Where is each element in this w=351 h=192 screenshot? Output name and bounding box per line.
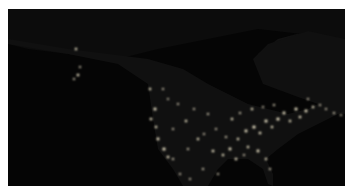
- city-light: [265, 120, 268, 123]
- city-light: [197, 138, 199, 140]
- city-light: [307, 98, 309, 100]
- city-light: [235, 158, 238, 161]
- city-light: [157, 138, 160, 141]
- city-light: [75, 48, 77, 50]
- city-light: [222, 154, 224, 156]
- city-light: [276, 117, 279, 120]
- city-light: [150, 118, 153, 121]
- city-light: [251, 108, 253, 110]
- city-light: [215, 128, 217, 130]
- city-light: [273, 104, 275, 106]
- city-light: [79, 66, 81, 68]
- city-light: [212, 150, 215, 153]
- north-america-night-map: [8, 9, 345, 186]
- city-light: [203, 133, 205, 135]
- city-light: [207, 113, 209, 115]
- city-light: [217, 173, 219, 175]
- city-light: [154, 108, 157, 111]
- city-light: [231, 118, 233, 120]
- city-light: [239, 112, 241, 114]
- city-light: [185, 120, 187, 122]
- city-light: [172, 128, 174, 130]
- city-light: [265, 158, 267, 160]
- city-light: [325, 108, 327, 110]
- city-light: [237, 138, 239, 140]
- city-light: [257, 150, 260, 153]
- city-light: [247, 146, 249, 148]
- city-light: [259, 132, 262, 135]
- city-light: [202, 168, 204, 170]
- night-lights-image: [8, 9, 345, 186]
- city-light: [243, 154, 245, 156]
- city-light: [229, 148, 232, 151]
- city-light: [245, 130, 248, 133]
- city-light: [271, 126, 273, 128]
- city-light: [299, 116, 302, 119]
- city-light: [269, 168, 271, 170]
- city-light: [167, 98, 169, 100]
- city-light: [319, 104, 321, 106]
- city-light: [73, 78, 75, 80]
- city-light: [262, 106, 264, 108]
- city-light: [177, 103, 179, 105]
- city-light: [162, 147, 165, 150]
- city-light: [162, 88, 164, 90]
- city-light: [189, 178, 191, 180]
- city-light: [179, 173, 181, 175]
- city-light: [193, 108, 195, 110]
- city-light: [312, 106, 314, 108]
- city-light: [187, 148, 189, 150]
- city-light: [225, 136, 227, 138]
- city-light: [252, 125, 255, 128]
- city-light: [172, 158, 174, 160]
- city-light: [283, 112, 286, 115]
- city-light: [155, 126, 157, 128]
- city-light: [149, 88, 151, 90]
- city-light: [340, 114, 342, 116]
- city-light: [77, 74, 80, 77]
- city-light: [333, 112, 335, 114]
- city-light: [167, 156, 170, 159]
- city-light: [305, 110, 308, 113]
- city-light: [289, 120, 291, 122]
- city-light: [295, 108, 298, 111]
